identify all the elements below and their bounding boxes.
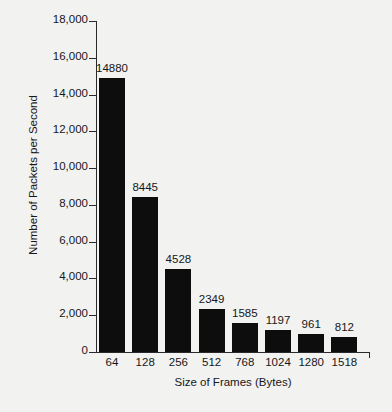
y-axis-tick [89,352,96,353]
bar-value-label: 14880 [87,62,137,74]
bar [99,78,125,352]
y-axis-tick-label: 4,000 [28,270,88,282]
y-axis-tick-label: 16,000 [28,50,88,62]
x-axis-line [96,352,370,353]
y-axis-tick-label: 2,000 [28,307,88,319]
bar-value-label: 2349 [187,293,237,305]
y-axis-tick-label: 12,000 [28,123,88,135]
y-axis-tick-label: 8,000 [28,197,88,209]
y-axis-tick [89,278,96,279]
x-axis-tick-labels: 64128256512768102412801518 [96,356,370,374]
bar-value-label: 8445 [120,181,170,193]
bar [298,334,324,352]
y-axis-tick [89,95,96,96]
y-axis-tick-label: 10,000 [28,160,88,172]
y-axis-tick-label: 14,000 [28,87,88,99]
bar-value-label: 812 [319,321,369,333]
bar [265,330,291,352]
y-axis-tick [89,21,96,22]
x-axis-tick-label: 1518 [319,356,369,368]
x-axis-title: Size of Frames (Bytes) [96,376,370,388]
y-axis-tick [89,242,96,243]
bar-chart-figure: Number of Packets per Second 02,0004,000… [0,0,392,412]
bar [232,323,258,352]
bar-value-label: 4528 [153,253,203,265]
bar-series: 1488084454528234915851197961812 [96,21,370,352]
y-axis-tick [89,131,96,132]
y-axis-tick-label: 0 [28,344,88,356]
y-axis-tick [89,168,96,169]
y-axis-tick [89,58,96,59]
bar [132,197,158,352]
bar [331,337,357,352]
y-axis-tick-labels: 02,0004,0006,0008,00010,00012,00014,0001… [22,21,88,352]
y-axis-tick [89,205,96,206]
y-axis-tick-label: 6,000 [28,234,88,246]
y-axis-tick [89,315,96,316]
y-axis-tick-label: 18,000 [28,13,88,25]
plot-area: 1488084454528234915851197961812 [96,21,370,352]
bar [165,269,191,352]
